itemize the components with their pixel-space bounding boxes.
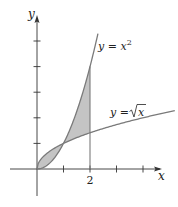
x-axis-label: x <box>158 169 165 183</box>
shaded-area <box>37 67 90 169</box>
label-sqrt-x: y = x <box>109 105 146 120</box>
shaded-region <box>37 67 90 169</box>
x-tick-label-2: 2 <box>87 174 94 187</box>
svg-text:x: x <box>138 106 145 119</box>
y-axis-label: y <box>27 7 35 21</box>
svg-text:y =: y = <box>109 106 129 119</box>
curve-sqrt-x <box>37 111 175 169</box>
label-x-squared: y = x2 <box>97 38 132 53</box>
area-between-curves-figure: y x 2 y = x2 y = x <box>0 0 178 207</box>
